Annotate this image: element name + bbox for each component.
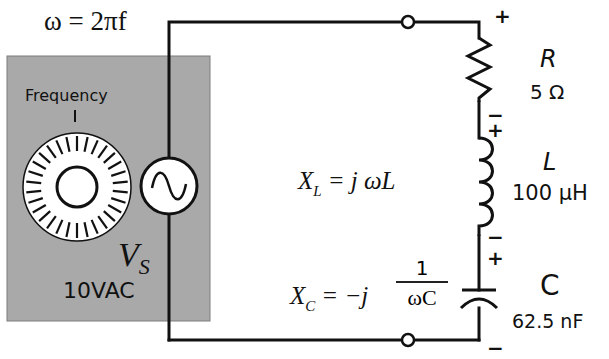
xl-rhs: = j ωL xyxy=(328,167,396,194)
capacitor-plus: + xyxy=(487,248,504,268)
xc-sub: C xyxy=(305,298,315,314)
inductor-value: 100 μH xyxy=(512,183,588,204)
resistor-name: R xyxy=(540,47,557,71)
source-symbol-name: V xyxy=(118,236,139,273)
capacitor-minus: − xyxy=(487,338,504,358)
xl-sub: L xyxy=(313,183,321,199)
circuit-diagram: ω = 2πf Frequency VS 10VAC + R 5 Ω − + L… xyxy=(0,0,609,359)
capacitor-value: 62.5 nF xyxy=(512,312,583,331)
fraction-bar xyxy=(396,281,448,283)
xc-rhs: = −j xyxy=(321,282,368,309)
xl-lhs: X xyxy=(298,167,313,194)
inductive-reactance-equation: XL= j ωL xyxy=(298,168,396,193)
xc-lhs: X xyxy=(290,282,305,309)
inductor-name: L xyxy=(543,150,556,174)
terminal-bottom xyxy=(402,334,414,346)
ac-source-icon xyxy=(141,158,197,214)
inductor-icon xyxy=(479,138,493,236)
capacitor-name: C xyxy=(540,272,560,300)
xc-denominator: ωC xyxy=(407,287,436,309)
xc-numerator: 1 xyxy=(416,258,429,278)
source-value: 10VAC xyxy=(63,280,135,302)
frequency-label: Frequency xyxy=(25,88,108,104)
inductor-minus: − xyxy=(487,227,504,247)
resistor-value: 5 Ω xyxy=(530,82,564,102)
omega-formula: ω = 2πf xyxy=(44,8,127,35)
resistor-icon xyxy=(468,38,490,102)
capacitor-icon xyxy=(461,290,497,308)
omega-formula-text: ω = 2πf xyxy=(44,6,127,36)
source-symbol: VS xyxy=(118,238,150,272)
source-symbol-subscript: S xyxy=(139,254,150,279)
inductor-plus: + xyxy=(487,120,504,140)
xc-fraction: 1 ωC xyxy=(396,258,448,309)
resistor-plus: + xyxy=(494,6,511,26)
terminal-top xyxy=(402,16,414,28)
capacitive-reactance-equation: XC= −j xyxy=(290,283,368,308)
